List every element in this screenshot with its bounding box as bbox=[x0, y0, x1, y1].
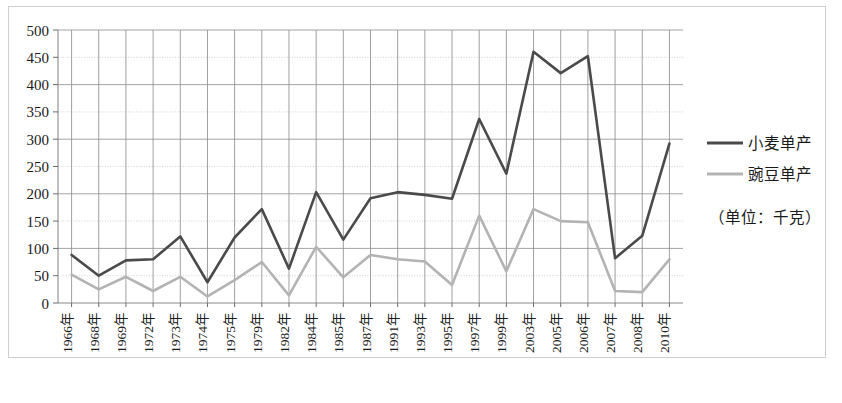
y-tick-label: 0 bbox=[42, 296, 50, 312]
x-tick-label: 1993年 bbox=[413, 313, 428, 353]
y-tick-label: 350 bbox=[27, 104, 50, 120]
x-tick-label: 2008年 bbox=[630, 313, 645, 353]
x-tick-label: 1969年 bbox=[114, 313, 129, 353]
y-tick-label: 50 bbox=[34, 268, 49, 284]
x-tick-label: 1974年 bbox=[195, 313, 210, 353]
x-tick-label: 2006年 bbox=[576, 313, 591, 353]
x-tick-label: 2003年 bbox=[522, 313, 537, 353]
x-tick-label: 1999年 bbox=[494, 313, 509, 353]
y-tick-label: 500 bbox=[27, 23, 50, 39]
x-tick-label: 1966年 bbox=[60, 313, 75, 353]
x-tick-label: 1982年 bbox=[277, 313, 292, 353]
y-tick-label: 150 bbox=[27, 214, 50, 230]
x-tick-label: 1975年 bbox=[223, 313, 238, 353]
x-tick-label: 1987年 bbox=[359, 313, 374, 353]
y-tick-label: 300 bbox=[27, 132, 50, 148]
y-tick-label: 200 bbox=[27, 186, 50, 202]
x-tick-label: 1984年 bbox=[304, 313, 319, 353]
x-tick-label: 1991年 bbox=[386, 313, 401, 353]
x-tick-label: 2010年 bbox=[657, 313, 672, 353]
chart-container: 050100150200250300350400450500 1966年1968… bbox=[0, 0, 842, 403]
x-tick-label: 1973年 bbox=[168, 313, 183, 353]
x-tick-label: 2005年 bbox=[549, 313, 564, 353]
x-tick-label: 1972年 bbox=[141, 313, 156, 353]
x-tick-label: 1995年 bbox=[440, 313, 455, 353]
x-gridlines bbox=[72, 30, 670, 303]
y-axis-ticks: 050100150200250300350400450500 bbox=[27, 23, 59, 312]
legend-item-label: 豌豆单产 bbox=[748, 166, 812, 183]
y-tick-label: 450 bbox=[27, 50, 50, 66]
x-tick-label: 1968年 bbox=[87, 313, 102, 353]
y-tick-label: 250 bbox=[27, 159, 50, 175]
x-axis-ticks: 1966年1968年1969年1972年1973年1974年1975年1979年… bbox=[60, 303, 673, 353]
y-tick-label: 400 bbox=[27, 77, 50, 93]
x-tick-label: 1997年 bbox=[467, 313, 482, 353]
x-tick-label: 1979年 bbox=[250, 313, 265, 353]
chart-legend: 小麦单产豌豆单产（单位：千克） bbox=[707, 135, 821, 226]
legend-unit-note: （单位：千克） bbox=[709, 209, 821, 226]
y-tick-label: 100 bbox=[27, 241, 50, 257]
x-tick-label: 2007年 bbox=[603, 313, 618, 353]
line-chart-plot: 050100150200250300350400450500 1966年1968… bbox=[0, 0, 842, 403]
legend-item-label: 小麦单产 bbox=[748, 135, 812, 152]
x-tick-label: 1985年 bbox=[331, 313, 346, 353]
